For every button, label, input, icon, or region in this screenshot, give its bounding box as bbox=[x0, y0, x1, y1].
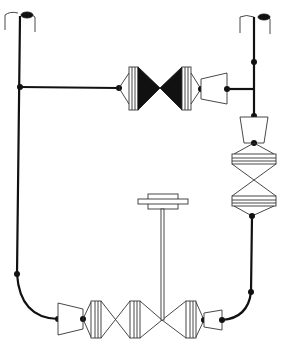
valve-bottom-2-icon bbox=[140, 301, 207, 338]
junction-node bbox=[17, 84, 23, 90]
reducer-bottom-left-icon bbox=[58, 303, 86, 335]
piping-diagram bbox=[0, 0, 285, 344]
pipe-right-bottom bbox=[222, 216, 252, 320]
valve-right-icon bbox=[232, 143, 276, 219]
valve-stem-handwheel-icon bbox=[138, 194, 188, 320]
junction-node bbox=[14, 271, 20, 277]
reducer-bottom-right-icon bbox=[204, 310, 225, 330]
reducer-top-icon bbox=[201, 73, 230, 104]
junction-node bbox=[248, 289, 254, 295]
valve-top-icon bbox=[116, 67, 204, 110]
junction-node bbox=[251, 59, 257, 65]
reducer-right-icon bbox=[240, 117, 268, 146]
pipe-top-horizontal bbox=[20, 87, 118, 88]
pipe-left-main bbox=[17, 16, 58, 319]
valve-bottom-1-icon bbox=[83, 301, 140, 338]
